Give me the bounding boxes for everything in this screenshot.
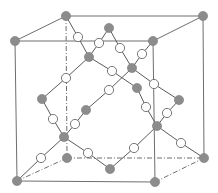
gray-atom (104, 23, 113, 32)
white-atom (94, 38, 103, 47)
gray-atom (152, 121, 161, 130)
gray-atom (150, 177, 159, 186)
white-atom (73, 32, 82, 41)
cube-edge (203, 16, 204, 158)
gray-atom (37, 94, 46, 103)
gray-atom (84, 52, 93, 61)
white-atom (48, 114, 57, 123)
white-atom (162, 108, 171, 117)
gray-atom (81, 105, 90, 114)
diamond-crystal-structure-diagram (0, 0, 218, 193)
cube-edge (153, 41, 155, 182)
gray-atom (198, 11, 207, 20)
white-atoms (36, 32, 185, 162)
cube-edge (15, 41, 17, 181)
cube-edge (153, 16, 203, 41)
gray-atom (148, 36, 157, 45)
white-atom (83, 148, 92, 157)
white-atom (61, 73, 70, 82)
gray-atom (199, 153, 208, 162)
gray-atom (105, 164, 114, 173)
gray-atom (10, 36, 19, 45)
gray-atom (132, 83, 141, 92)
gray-atom (59, 132, 68, 141)
hidden-cube-edge (155, 158, 204, 182)
gray-atom (174, 95, 183, 104)
white-atom (137, 49, 146, 58)
gray-atom (62, 153, 71, 162)
gray-atom (61, 11, 70, 20)
gray-atom (12, 176, 21, 185)
white-atom (176, 138, 185, 147)
white-atom (129, 143, 138, 152)
white-atom (104, 85, 113, 94)
cube-edge (15, 16, 66, 41)
white-atom (36, 153, 45, 162)
white-atom (70, 119, 79, 128)
white-atom (149, 79, 158, 88)
cube-edge (17, 181, 155, 182)
white-atom (141, 102, 150, 111)
white-atom (107, 66, 116, 75)
gray-atom (127, 63, 136, 72)
white-atom (115, 43, 124, 52)
